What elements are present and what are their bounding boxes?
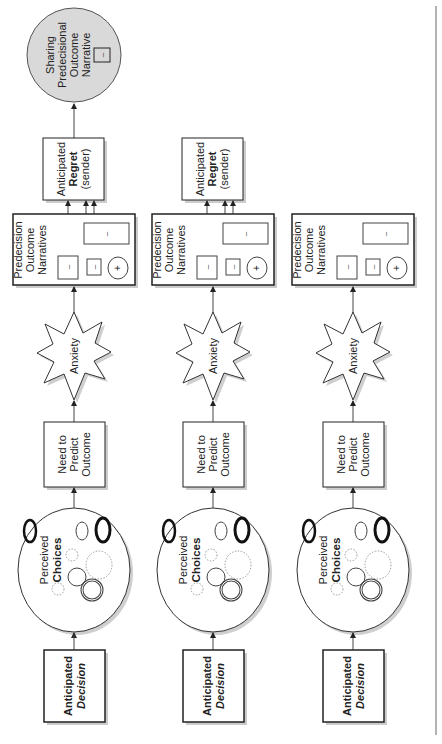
need-label-2: Predict <box>207 437 219 471</box>
decision-label-2: Decision <box>354 663 366 709</box>
anticipated-decision-node: Anticipated Decision <box>183 650 247 725</box>
regret-label-3: (sender) <box>218 149 230 190</box>
choices-label-2: Choices <box>190 538 202 583</box>
regret-label-1: Anticipated <box>55 142 67 196</box>
negative-sign: – <box>98 52 107 57</box>
perceived-choices-node: Perceived Choices <box>297 508 412 635</box>
choices-label-2: Choices <box>330 538 342 583</box>
anxiety-node: Anxiety <box>316 312 393 403</box>
regret-label-1: Anticipated <box>194 142 206 196</box>
predecision-label-2: Outcome <box>303 228 315 273</box>
flow-column-3: Predecision Outcome Narratives – – + – A… <box>291 214 417 725</box>
choices-label-1: Perceived <box>317 536 329 585</box>
sign-minus: – <box>64 264 73 269</box>
sign-minus: – <box>241 231 250 236</box>
decision-label-1: Anticipated <box>201 656 213 716</box>
regret-label-2: Regret <box>206 151 218 186</box>
regret-label-3: (sender) <box>79 149 91 190</box>
predecision-narratives-node: Predecision Outcome Narratives – – + – <box>151 214 277 288</box>
sign-minus: – <box>90 264 99 269</box>
need-to-predict-node: Need to Predict Outcome <box>183 422 247 490</box>
anticipated-regret-node: Anticipated Regret (sender) <box>43 138 107 203</box>
choices-label-1: Perceived <box>177 536 189 585</box>
sign-minus: – <box>381 231 390 236</box>
need-to-predict-node: Need to Predict Outcome <box>44 422 108 490</box>
sign-minus: – <box>229 264 238 269</box>
predecision-label-1: Predecision <box>151 221 163 278</box>
sign-minus: – <box>102 231 111 236</box>
decision-label-2: Decision <box>214 663 226 709</box>
choices-label-2: Choices <box>51 538 63 583</box>
need-label-3: Outcome <box>219 432 231 477</box>
need-label-2: Predict <box>68 437 80 471</box>
need-label-2: Predict <box>347 437 359 471</box>
sign-minus: – <box>343 264 352 269</box>
predecision-label-1: Predecision <box>291 221 303 278</box>
perceived-choices-node: Perceived Choices <box>157 508 272 635</box>
predecision-label-1: Predecision <box>12 221 24 278</box>
anxiety-label: Anxiety <box>207 337 219 374</box>
predecision-narratives-node: Predecision Outcome Narratives – – + – <box>291 214 417 288</box>
anxiety-node: Anxiety <box>176 312 253 403</box>
regret-label-2: Regret <box>67 151 79 186</box>
flow-column-2: Anticipated Regret (sender) Predecision … <box>151 138 277 725</box>
sign-plus: + <box>112 265 123 271</box>
anticipated-decision-node: Anticipated Decision <box>44 650 108 725</box>
need-label-1: Need to <box>195 435 207 474</box>
flow-column-1: Sharing Predecisional Outcome Narrative … <box>12 8 138 725</box>
predecision-label-3: Narratives <box>36 224 48 275</box>
diagram-canvas: Sharing Predecisional Outcome Narrative … <box>0 0 442 744</box>
anticipated-decision-node: Anticipated Decision <box>323 650 387 725</box>
predecision-label-2: Outcome <box>163 228 175 273</box>
sharing-label-4: Narrative <box>80 33 92 78</box>
sign-plus: + <box>391 265 402 271</box>
need-label-3: Outcome <box>359 432 371 477</box>
decision-label-2: Decision <box>75 663 87 709</box>
need-label-3: Outcome <box>80 432 92 477</box>
sharing-label-3: Outcome <box>68 33 80 78</box>
need-to-predict-node: Need to Predict Outcome <box>323 422 387 490</box>
anticipated-regret-node: Anticipated Regret (sender) <box>182 138 246 203</box>
anxiety-label: Anxiety <box>347 337 359 374</box>
need-label-1: Need to <box>335 435 347 474</box>
decision-label-1: Anticipated <box>341 656 353 716</box>
predecision-label-3: Narratives <box>175 224 187 275</box>
sharing-label-2: Predecisional <box>56 22 68 88</box>
sign-plus: + <box>251 265 262 271</box>
sharing-narrative-node: Sharing Predecisional Outcome Narrative … <box>27 8 121 102</box>
sign-minus: – <box>369 264 378 269</box>
decision-label-1: Anticipated <box>62 656 74 716</box>
need-label-1: Need to <box>56 435 68 474</box>
predecision-label-2: Outcome <box>24 228 36 273</box>
sign-minus: – <box>203 264 212 269</box>
perceived-choices-node: Perceived Choices <box>18 508 133 635</box>
predecision-label-3: Narratives <box>315 224 327 275</box>
anxiety-label: Anxiety <box>68 337 80 374</box>
predecision-narratives-node: Predecision Outcome Narratives – – + – <box>12 214 138 288</box>
sharing-label-1: Sharing <box>44 36 56 74</box>
anxiety-node: Anxiety <box>37 312 114 403</box>
choices-label-1: Perceived <box>38 536 50 585</box>
